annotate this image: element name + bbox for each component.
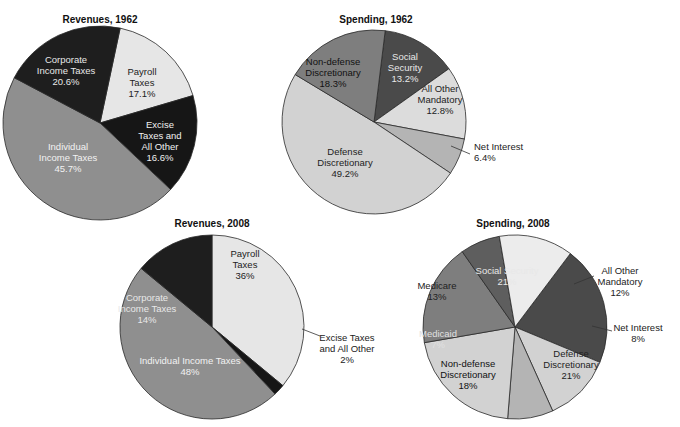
callout-line — [302, 329, 320, 336]
chart-title-revenues-1962: Revenues, 1962 — [62, 14, 137, 25]
slice-label-all-other-mandatory: All OtherMandatory12% — [598, 265, 643, 298]
slice-label-net-interest: Net Interest8% — [613, 322, 662, 344]
pie-spending-1962: SocialSecurity13.2%All OtherMandatory12.… — [282, 30, 523, 214]
pie-revenues-1962: PayrollTaxes17.1%ExciseTaxes andAll Othe… — [3, 26, 197, 220]
pie-revenues-2008: PayrollTaxes36%Excise Taxesand All Other… — [118, 235, 375, 419]
slice-label-excise-taxes-and-all-other: Excise Taxesand All Other2% — [319, 332, 375, 365]
chart-title-revenues-2008: Revenues, 2008 — [174, 218, 249, 229]
chart-title-spending-1962: Spending, 1962 — [339, 14, 413, 25]
chart-title-spending-2008: Spending, 2008 — [476, 218, 550, 229]
slice-label-payroll-taxes: PayrollTaxes17.1% — [127, 66, 156, 99]
pie-charts-figure: Revenues, 1962 Spending, 1962 Revenues, … — [0, 0, 680, 427]
slice-label-social-security: SocialSecurity13.2% — [388, 51, 423, 84]
slice-label-net-interest: Net Interest6.4% — [474, 141, 523, 163]
pie-spending-2008: Social Security21%All OtherMandatory12%N… — [417, 235, 662, 419]
